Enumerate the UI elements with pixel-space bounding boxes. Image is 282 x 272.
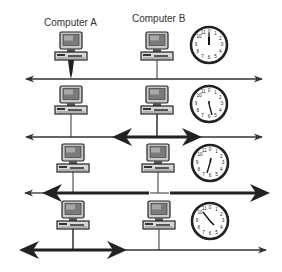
- clock-icon: [191, 27, 227, 63]
- computer-b-icon: [143, 201, 175, 229]
- row-1: [26, 27, 262, 79]
- computer-a-icon: [55, 86, 87, 114]
- computer-b-icon: [142, 144, 174, 172]
- clock-icon: [192, 203, 228, 239]
- computer-b-icon: [141, 86, 173, 114]
- computer-a-icon: [57, 144, 89, 172]
- row-2: [26, 86, 262, 146]
- clock-icon: [192, 145, 228, 181]
- row-3: [25, 144, 270, 202]
- computer-a-icon: [55, 32, 87, 60]
- computer-a-icon: [57, 201, 89, 229]
- transmit-connector-a: [68, 60, 74, 79]
- network-timing-diagram: 0 1 2 3 4 5 6 7 8 9 10 11: [0, 0, 282, 272]
- clock-icon: [191, 86, 227, 122]
- computer-b-icon: [141, 32, 173, 60]
- row-4: [19, 201, 266, 259]
